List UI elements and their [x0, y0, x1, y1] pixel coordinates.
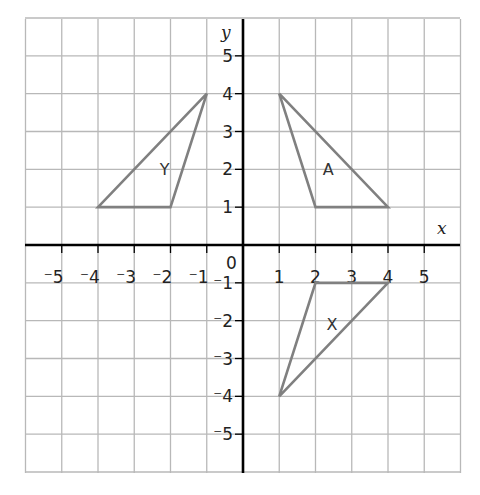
triangle-a: [279, 94, 388, 208]
triangle-label: X: [326, 315, 337, 334]
triangle-label: A: [323, 160, 334, 179]
y-tick-label: ⁻1: [213, 273, 233, 293]
x-tick-label: ⁻1: [189, 267, 209, 287]
y-axis-label: y: [220, 22, 231, 42]
x-tick-label: 5: [419, 267, 430, 287]
y-tick-label: 5: [222, 46, 233, 66]
y-tick-label: 2: [222, 159, 233, 179]
y-tick-label: 3: [222, 122, 233, 142]
x-tick-label: ⁻2: [153, 267, 173, 287]
triangle-y: [98, 94, 207, 208]
triangle-label: Y: [159, 160, 170, 179]
x-tick-label: ⁻5: [44, 267, 64, 287]
y-tick-label: ⁻3: [213, 349, 233, 369]
y-tick-label: ⁻5: [213, 424, 233, 444]
x-tick-label: ⁻3: [116, 267, 136, 287]
x-axis-label: x: [437, 218, 447, 238]
coordinate-grid-diagram: ⁻5⁻4⁻3⁻2⁻11234554321⁻1⁻2⁻3⁻4⁻5 x y 0 AYX: [0, 0, 480, 495]
y-tick-label: ⁻4: [213, 386, 233, 406]
x-tick-label: 1: [274, 267, 285, 287]
origin-label: 0: [226, 253, 237, 273]
y-tick-label: 4: [222, 84, 233, 104]
x-tick-label: ⁻4: [80, 267, 100, 287]
y-tick-label: 1: [222, 197, 233, 217]
y-tick-label: ⁻2: [213, 311, 233, 331]
triangle-x: [279, 283, 388, 397]
